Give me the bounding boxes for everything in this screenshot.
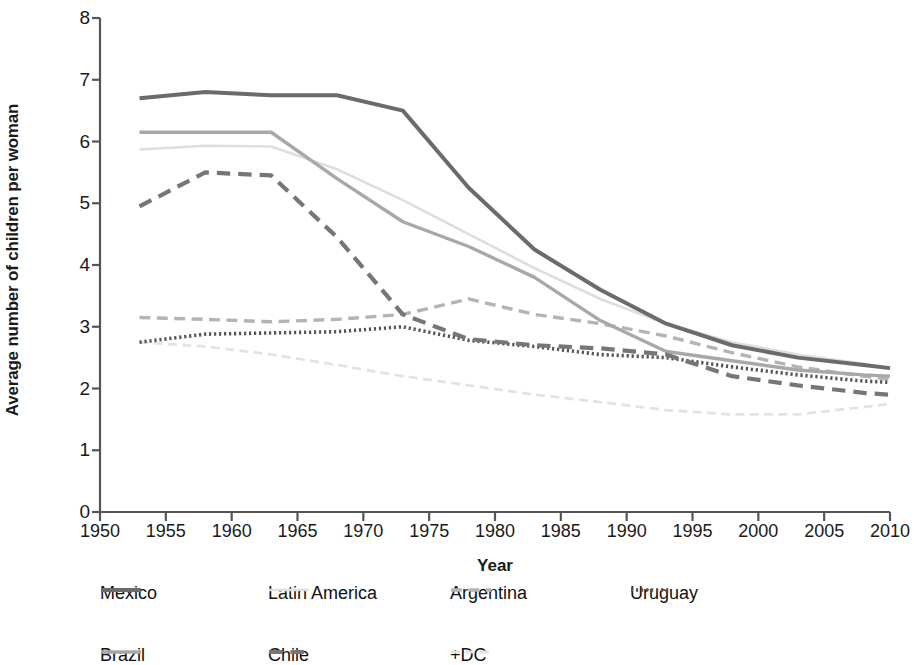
legend-swatch-latin-america <box>268 583 310 597</box>
x-axis-tick-label: 1955 <box>131 521 201 542</box>
legend-item-argentina[interactable]: Argentina <box>450 583 527 604</box>
legend-item-latin-america[interactable]: Latin America <box>268 583 377 604</box>
x-axis-tick-label: 1995 <box>658 521 728 542</box>
x-axis-tick-label: 1990 <box>592 521 662 542</box>
chart-legend: MexicoLatin AmericaArgentinaUruguayBrazi… <box>100 583 890 645</box>
x-axis-tick-label: 1985 <box>526 521 596 542</box>
legend-row: BrazilChile+DC <box>100 614 890 645</box>
x-axis-tick-label: 1965 <box>263 521 333 542</box>
x-axis-tick-label: 1980 <box>460 521 530 542</box>
x-axis-tick-label: 2000 <box>723 521 793 542</box>
legend-item-mexico[interactable]: Mexico <box>100 583 157 604</box>
series-line-latin-america <box>140 146 891 369</box>
x-axis-tick-label: 1975 <box>394 521 464 542</box>
legend-item-brazil[interactable]: Brazil <box>100 645 145 665</box>
x-axis-tick-label: 1960 <box>197 521 267 542</box>
series-line-brazil <box>140 132 891 376</box>
legend-item-chile[interactable]: Chile <box>268 645 309 665</box>
legend-swatch-chile <box>268 645 310 659</box>
legend-swatch-argentina <box>450 583 492 597</box>
legend-swatch-uruguay <box>630 583 672 597</box>
legend-item-uruguay[interactable]: Uruguay <box>630 583 698 604</box>
x-axis-title: Year <box>100 556 890 576</box>
legend-swatch-brazil <box>100 645 142 659</box>
x-axis-tick-label: 2010 <box>855 521 914 542</box>
x-axis-tick-label: 2005 <box>789 521 859 542</box>
legend-swatch-mexico <box>100 583 142 597</box>
x-axis-tick-label: 1970 <box>328 521 398 542</box>
x-axis-tick-label: 1950 <box>65 521 135 542</box>
legend-item-dc[interactable]: +DC <box>450 645 487 665</box>
legend-swatch-dc <box>450 645 492 659</box>
legend-row: MexicoLatin AmericaArgentinaUruguay <box>100 583 890 614</box>
